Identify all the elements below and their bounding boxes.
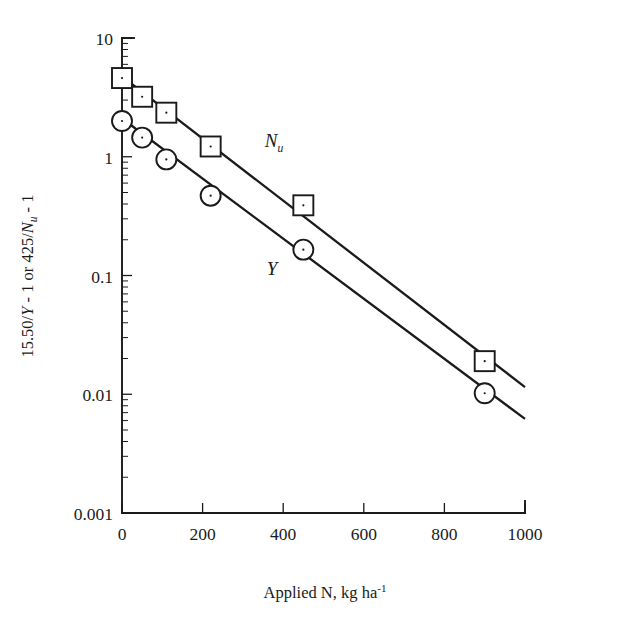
data-point-center — [302, 249, 304, 251]
data-point-center — [210, 145, 212, 147]
x-axis-title-base: Applied N, kg ha — [264, 583, 378, 602]
y-axis-title-p6: - 1 — [18, 195, 37, 217]
x-tick-label: 800 — [431, 524, 458, 544]
data-point-center — [141, 96, 143, 98]
y-axis-title-p1: 15.50/ — [18, 315, 37, 357]
data-point-center — [141, 136, 143, 138]
x-tick-label: 0 — [118, 524, 127, 544]
y-tick-label: 10 — [96, 29, 114, 49]
data-point-center — [484, 360, 486, 362]
y-tick-label: 0.01 — [82, 385, 113, 405]
y-tick-label: 0.001 — [74, 504, 113, 524]
svg-text:Applied N, kg ha-1: Applied N, kg ha-1 — [264, 582, 387, 602]
y-tick-label: 0.1 — [91, 267, 113, 287]
x-axis-title-exponent: -1 — [377, 582, 386, 594]
data-point-center — [121, 120, 123, 122]
data-point-center — [302, 204, 304, 206]
x-tick-label: 400 — [270, 524, 297, 544]
data-point-center — [165, 158, 167, 160]
data-point-center — [165, 112, 167, 114]
x-axis-title: Applied N, kg ha-1 — [264, 582, 387, 602]
scatter-plot-figure: 10 1 0.1 0.01 0.001 0 200 400 600 800 10… — [0, 0, 634, 630]
data-point-center — [484, 392, 486, 394]
data-point-center — [121, 77, 123, 79]
data-point-center — [210, 195, 212, 197]
x-tick-label: 600 — [351, 524, 378, 544]
x-tick-label: 200 — [189, 524, 216, 544]
y-tick-label: 1 — [104, 148, 113, 168]
series-label-nu-subscript: u — [277, 142, 283, 154]
y-axis-title-p3: - 1 or 425/ — [18, 233, 37, 307]
x-tick-label: 1000 — [508, 524, 543, 544]
